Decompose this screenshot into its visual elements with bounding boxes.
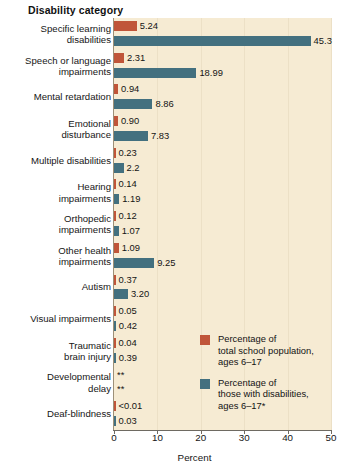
category-row: Speech or language impairments2.3118.99 (0, 50, 343, 82)
bar-total_population (114, 338, 116, 348)
category-row: Multiple disabilities0.232.2 (0, 145, 343, 177)
bar-value-label: 8.86 (155, 97, 173, 110)
x-tick-mark (331, 430, 332, 434)
x-tick-label: 50 (316, 432, 343, 443)
bar-value-label: 0.94 (121, 82, 139, 95)
category-label: Traumatic brain injury (7, 340, 111, 362)
category-label: Developmental delay (7, 371, 111, 393)
category-row: Specific learning disabilities5.2445.3 (0, 18, 343, 50)
bar-total_population (114, 148, 116, 158)
bar-value-label: 18.99 (199, 66, 222, 79)
bar-value-label: 2.2 (127, 161, 140, 174)
x-axis-ticks: 01020304050 (0, 432, 343, 448)
x-axis-line (113, 430, 331, 431)
x-tick-mark (114, 430, 115, 434)
bar-value-label: 0.39 (119, 351, 137, 364)
category-row: Emotional disturbance0.907.83 (0, 113, 343, 145)
bar-value-label: 2.31 (127, 51, 145, 64)
bar-value-label: 9.25 (157, 256, 175, 269)
bar-with_disabilities (114, 194, 119, 204)
bar-total_population (114, 306, 116, 316)
bar-value-label: ** (117, 368, 124, 381)
legend-item: Percentage of total school population, a… (200, 333, 340, 368)
bar-total_population (114, 84, 118, 94)
category-label: Specific learning disabilities (7, 23, 111, 45)
category-row: Hearing impairments0.141.19 (0, 176, 343, 208)
disability-category-bar-chart: Disability category Specific learning di… (0, 0, 343, 476)
category-row: Visual impairments0.050.42 (0, 303, 343, 335)
bar-value-label: 0.42 (119, 319, 137, 332)
bar-value-label: 0.04 (119, 336, 137, 349)
bar-group: 1.099.25 (114, 240, 343, 272)
bar-with_disabilities (114, 99, 152, 109)
bar-with_disabilities (114, 68, 196, 78)
bar-value-label: 0.14 (119, 177, 137, 190)
category-label: Other health impairments (7, 244, 111, 266)
chart-legend: Percentage of total school population, a… (200, 333, 340, 421)
bar-value-label: 0.37 (119, 273, 137, 286)
bar-with_disabilities (114, 36, 311, 46)
bar-value-label: 0.12 (119, 209, 137, 222)
x-axis-title-text: Percent (178, 452, 212, 463)
category-label: Deaf-blindness (7, 409, 111, 420)
bar-group: 0.948.86 (114, 81, 343, 113)
category-label: Visual impairments (7, 313, 111, 324)
bar-value-label: 0.03 (119, 414, 137, 427)
x-tick-mark (201, 430, 202, 434)
bar-total_population (114, 53, 124, 63)
legend-label: Percentage of those with disabilities, a… (218, 377, 340, 412)
legend-swatch-blue (200, 379, 210, 389)
legend-swatch-orange (200, 335, 210, 345)
bar-value-label: 45.3 (314, 34, 332, 47)
bar-group: 0.121.07 (114, 208, 343, 240)
x-axis-title: Percent (0, 452, 343, 463)
bar-with_disabilities (114, 321, 116, 331)
bar-group: 0.907.83 (114, 113, 343, 145)
bar-group: 0.141.19 (114, 176, 343, 208)
bar-total_population (114, 179, 116, 189)
category-row: Autism0.373.20 (0, 272, 343, 304)
bar-group: 5.2445.3 (114, 18, 343, 50)
bar-value-label: 0.23 (119, 146, 137, 159)
category-label: Orthopedic impairments (7, 213, 111, 235)
bar-total_population (114, 211, 116, 221)
category-label: Speech or language impairments (7, 54, 111, 76)
bar-with_disabilities (114, 289, 128, 299)
bar-with_disabilities (114, 226, 119, 236)
bar-value-label: 7.83 (151, 129, 169, 142)
bar-with_disabilities (114, 258, 154, 268)
category-label: Emotional disturbance (7, 118, 111, 140)
bar-total_population (114, 275, 116, 285)
bar-total_population (114, 401, 116, 411)
category-row: Other health impairments1.099.25 (0, 240, 343, 272)
bar-group: 2.3118.99 (114, 50, 343, 82)
legend-item: Percentage of those with disabilities, a… (200, 377, 340, 412)
bar-group: 0.373.20 (114, 272, 343, 304)
bar-value-label: 0.90 (121, 114, 139, 127)
x-tick-mark (157, 430, 158, 434)
x-tick-mark (288, 430, 289, 434)
bar-value-label: 1.07 (122, 224, 140, 237)
bar-with_disabilities (114, 416, 116, 426)
bar-value-label: ** (117, 382, 124, 395)
category-label: Multiple disabilities (7, 155, 111, 166)
y-axis-title: Disability category (28, 4, 123, 16)
bar-total_population (114, 116, 118, 126)
bar-value-label: 5.24 (140, 19, 158, 32)
bar-total_population (114, 243, 119, 253)
bar-group: 0.050.42 (114, 303, 343, 335)
category-label: Autism (7, 282, 111, 293)
category-row: Mental retardation0.948.86 (0, 81, 343, 113)
bar-value-label: 1.09 (122, 241, 140, 254)
category-label: Mental retardation (7, 92, 111, 103)
bar-with_disabilities (114, 353, 116, 363)
bar-with_disabilities (114, 163, 124, 173)
category-row: Orthopedic impairments0.121.07 (0, 208, 343, 240)
bar-with_disabilities (114, 131, 148, 141)
x-tick-mark (244, 430, 245, 434)
bar-group: 0.232.2 (114, 145, 343, 177)
bar-value-label: <0.01 (119, 399, 143, 412)
category-label: Hearing impairments (7, 181, 111, 203)
legend-label: Percentage of total school population, a… (218, 333, 340, 368)
bar-value-label: 1.19 (122, 192, 140, 205)
